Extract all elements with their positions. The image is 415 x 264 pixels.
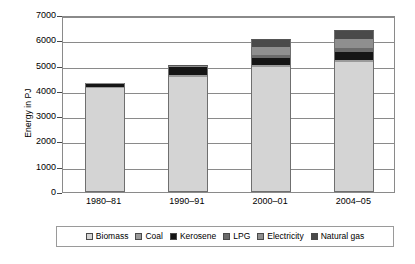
y-axis-tickmark — [57, 193, 62, 194]
bar-segment-natural-gas — [334, 30, 374, 39]
plot-area — [62, 16, 395, 193]
legend-swatch-icon — [135, 233, 142, 240]
legend-item-natural-gas[interactable]: Natural gas — [311, 232, 364, 241]
y-axis-tick-3000: 3000 — [12, 112, 56, 121]
legend-swatch-icon — [257, 233, 264, 240]
legend-swatch-icon — [223, 233, 230, 240]
bar-1990–91[interactable] — [168, 65, 208, 192]
bar-segment-electricity — [251, 47, 291, 55]
bar-2004–05[interactable] — [334, 30, 374, 192]
legend-label: Biomass — [96, 232, 129, 241]
y-axis-tick-7000: 7000 — [12, 11, 56, 20]
legend-label: Kerosene — [180, 232, 216, 241]
chart-container: Energy in PJ 010002000300040005000600070… — [0, 0, 415, 264]
legend-item-electricity[interactable]: Electricity — [257, 232, 303, 241]
legend-label: Coal — [145, 232, 162, 241]
bar-segment-natural-gas — [251, 39, 291, 47]
legend-swatch-icon — [86, 233, 93, 240]
legend-swatch-icon — [311, 233, 318, 240]
legend-swatch-icon — [170, 233, 177, 240]
bar-segment-kerosene — [334, 52, 374, 60]
legend-label: Natural gas — [321, 232, 364, 241]
bar-segment-biomass — [251, 67, 291, 192]
x-axis-tick-2004–05: 2004–05 — [313, 196, 393, 206]
bar-segment-kerosene — [168, 67, 208, 75]
legend-item-lpg[interactable]: LPG — [223, 232, 250, 241]
x-axis-tick-2000–01: 2000–01 — [230, 196, 310, 206]
x-axis-tick-1980–81: 1980–81 — [64, 196, 144, 206]
x-axis-tick-1990–91: 1990–91 — [147, 196, 227, 206]
chart-legend: BiomassCoalKeroseneLPGElectricityNatural… — [56, 226, 394, 247]
bar-segment-biomass — [334, 62, 374, 192]
y-axis-tick-0: 0 — [12, 188, 56, 197]
bar-2000–01[interactable] — [251, 39, 291, 192]
y-axis-tick-6000: 6000 — [12, 36, 56, 45]
y-axis-tick-2000: 2000 — [12, 137, 56, 146]
y-axis-tick-4000: 4000 — [12, 87, 56, 96]
legend-label: Electricity — [267, 232, 303, 241]
bar-segment-kerosene — [251, 58, 291, 66]
bar-1980–81[interactable] — [85, 83, 125, 192]
bar-segment-electricity — [334, 39, 374, 49]
bar-segment-biomass — [85, 88, 125, 192]
y-axis-tick-1000: 1000 — [12, 163, 56, 172]
legend-item-coal[interactable]: Coal — [135, 232, 162, 241]
bar-series-group — [63, 17, 394, 192]
legend-item-kerosene[interactable]: Kerosene — [170, 232, 216, 241]
legend-label: LPG — [233, 232, 250, 241]
bar-segment-biomass — [168, 77, 208, 192]
legend-item-biomass[interactable]: Biomass — [86, 232, 129, 241]
y-axis-tick-5000: 5000 — [12, 62, 56, 71]
